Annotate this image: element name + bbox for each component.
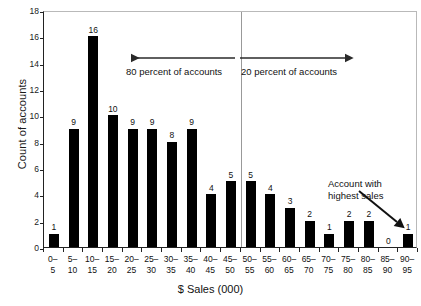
bar-value-label: 10 xyxy=(108,105,117,114)
y-axis-tick-label: 8 xyxy=(34,138,39,148)
bar-value-label: 3 xyxy=(288,197,293,206)
x-axis-tick-mark xyxy=(378,248,379,252)
bar[interactable] xyxy=(206,194,216,247)
bar[interactable] xyxy=(246,181,256,247)
y-axis-tick-label: 14 xyxy=(30,59,39,69)
x-axis-tick-mark xyxy=(200,248,201,252)
bar-slot[interactable]: 1 xyxy=(398,12,418,247)
x-axis-tick-mark xyxy=(417,248,418,252)
x-axis-title: $ Sales (000) xyxy=(0,283,421,295)
y-axis-tick-label: 2 xyxy=(34,217,39,227)
x-axis-category-label: 90–95 xyxy=(394,254,420,275)
bar-slot[interactable]: 8 xyxy=(162,12,182,247)
bar-slot[interactable]: 10 xyxy=(103,12,123,247)
bar-value-label: 9 xyxy=(189,118,194,127)
bar[interactable] xyxy=(49,234,59,247)
bars-layer: 191610998945543212201 xyxy=(44,12,416,247)
bar-slot[interactable]: 3 xyxy=(280,12,300,247)
bar[interactable] xyxy=(108,115,118,247)
y-axis-tick-label: 6 xyxy=(34,164,39,174)
bar[interactable] xyxy=(344,221,354,247)
bar-slot[interactable]: 1 xyxy=(44,12,64,247)
x-axis-tick-mark xyxy=(240,248,241,252)
bar-value-label: 2 xyxy=(307,210,312,219)
bar[interactable] xyxy=(305,221,315,247)
bar[interactable] xyxy=(88,36,98,247)
bar-value-label: 1 xyxy=(327,223,332,232)
bar-slot[interactable]: 4 xyxy=(201,12,221,247)
bar-slot[interactable]: 5 xyxy=(241,12,261,247)
bar-slot[interactable]: 16 xyxy=(83,12,103,247)
x-axis-tick-mark xyxy=(299,248,300,252)
highest-sales-callout: Account with highest sales xyxy=(328,178,414,201)
bar[interactable] xyxy=(167,142,177,247)
bar-value-label: 9 xyxy=(150,118,155,127)
bar-slot[interactable]: 9 xyxy=(182,12,202,247)
bar[interactable] xyxy=(226,181,236,247)
x-axis-tick-mark xyxy=(220,248,221,252)
bar-value-label: 8 xyxy=(170,131,175,140)
bar[interactable] xyxy=(364,221,374,247)
bar-slot[interactable]: 9 xyxy=(64,12,84,247)
left-span-label: 80 percent of accounts xyxy=(126,66,222,78)
right-span-label: 20 percent of accounts xyxy=(241,66,337,78)
bar-slot[interactable]: 4 xyxy=(261,12,281,247)
bar-slot[interactable]: 9 xyxy=(142,12,162,247)
bar-slot[interactable]: 2 xyxy=(300,12,320,247)
y-axis-tick-label: 10 xyxy=(30,111,39,121)
bar-slot[interactable]: 5 xyxy=(221,12,241,247)
y-axis-title: Count of accounts xyxy=(16,54,28,194)
y-axis-tick-label: 0 xyxy=(34,243,39,253)
bar-value-label: 4 xyxy=(209,184,214,193)
x-label-lower-bound: 90– xyxy=(394,254,420,265)
x-axis-tick-mark xyxy=(63,248,64,252)
bar-slot[interactable]: 0 xyxy=(379,12,399,247)
histogram-chart: Count of accounts 024681012141618 191610… xyxy=(0,0,421,306)
x-axis-tick-mark xyxy=(82,248,83,252)
y-axis-tick-label: 18 xyxy=(30,6,39,16)
bar-value-label: 5 xyxy=(248,171,253,180)
x-axis-tick-mark xyxy=(102,248,103,252)
x-axis-tick-mark xyxy=(279,248,280,252)
x-axis-labels: 0–55–1010–1515–2020–2525–3030–3535–4040–… xyxy=(43,254,417,278)
bar-value-label: 16 xyxy=(88,26,97,35)
x-axis-tick-mark xyxy=(358,248,359,252)
plot-area: 024681012141618 191610998945543212201 xyxy=(43,11,417,248)
x-axis-tick-mark xyxy=(141,248,142,252)
bar-slot[interactable]: 2 xyxy=(339,12,359,247)
x-axis-tick-mark xyxy=(319,248,320,252)
x-axis-tick-mark xyxy=(161,248,162,252)
bar-value-label: 0 xyxy=(386,237,391,246)
bar-value-label: 4 xyxy=(268,184,273,193)
bar-value-label: 5 xyxy=(229,171,234,180)
y-axis-tick-label: 4 xyxy=(34,190,39,200)
bar[interactable] xyxy=(285,208,295,248)
bar[interactable] xyxy=(187,129,197,248)
bar-slot[interactable]: 9 xyxy=(123,12,143,247)
bar-value-label: 1 xyxy=(51,223,56,232)
y-axis-tick-label: 16 xyxy=(30,32,39,42)
bar-value-label: 2 xyxy=(366,210,371,219)
bar-value-label: 1 xyxy=(406,223,411,232)
bar[interactable] xyxy=(128,129,138,248)
x-axis-tick-mark xyxy=(181,248,182,252)
x-axis-tick-mark xyxy=(43,248,44,252)
x-axis-tick-mark xyxy=(122,248,123,252)
bar[interactable] xyxy=(147,129,157,248)
bar-slot[interactable]: 2 xyxy=(359,12,379,247)
bar[interactable] xyxy=(69,129,79,248)
y-axis-tick-label: 12 xyxy=(30,85,39,95)
x-axis-tick-mark xyxy=(338,248,339,252)
x-axis-tick-mark xyxy=(397,248,398,252)
x-label-upper-bound: 95 xyxy=(394,265,420,276)
bar[interactable] xyxy=(324,234,334,247)
pareto-divider-line xyxy=(241,12,242,247)
bar-value-label: 2 xyxy=(347,210,352,219)
bar[interactable] xyxy=(403,234,413,247)
bar-value-label: 9 xyxy=(130,118,135,127)
bar[interactable] xyxy=(265,194,275,247)
x-axis-tick-mark xyxy=(260,248,261,252)
callout-line-1: Account with xyxy=(328,178,382,189)
bar-slot[interactable]: 1 xyxy=(320,12,340,247)
callout-line-2: highest sales xyxy=(328,190,383,201)
